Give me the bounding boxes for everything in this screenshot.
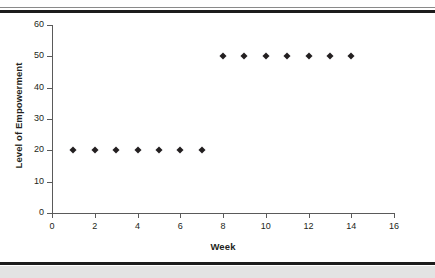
x-tick-label: 4 [135,221,140,231]
x-tick-mark [223,213,224,218]
x-tick-mark [266,213,267,218]
x-tick-label: 6 [178,221,183,231]
data-point-marker [219,53,226,60]
data-point-marker [262,53,269,60]
y-tick-mark [47,150,52,151]
y-tick-label: 60 [0,19,44,29]
x-axis-title: Week [52,241,394,252]
data-point-marker [284,53,291,60]
data-point-marker [305,53,312,60]
data-point-marker [155,147,162,154]
x-tick-label: 16 [389,221,399,231]
y-tick-label-wrap: 0 [0,207,44,217]
data-point-marker [70,147,77,154]
y-tick-mark [47,56,52,57]
x-tick-mark [394,213,395,218]
x-tick-label: 14 [346,221,356,231]
x-tick-mark [138,213,139,218]
figure-container: 0102030405060 0246810121416 Level of Emp… [0,0,435,278]
data-point-marker [198,147,205,154]
bottom-thick-rule [0,262,435,265]
x-tick-label: 0 [49,221,54,231]
y-tick-mark [47,182,52,183]
data-point-marker [134,147,141,154]
bottom-gray-band [0,266,435,278]
y-axis-line [52,25,53,214]
x-tick-label: 2 [92,221,97,231]
data-point-marker [326,53,333,60]
x-tick-mark [309,213,310,218]
x-tick-label: 10 [261,221,271,231]
y-tick-mark [47,88,52,89]
x-tick-label: 12 [303,221,313,231]
y-axis-title: Level of Empowerment [13,41,24,191]
scatter-plot: 0102030405060 0246810121416 Level of Emp… [0,0,435,278]
data-point-marker [113,147,120,154]
data-point-marker [91,147,98,154]
data-point-marker [348,53,355,60]
y-tick-mark [47,119,52,120]
x-tick-label: 8 [220,221,225,231]
x-tick-mark [351,213,352,218]
x-tick-mark [52,213,53,218]
y-tick-mark [47,25,52,26]
y-tick-label: 0 [0,207,44,217]
x-tick-mark [95,213,96,218]
data-point-marker [241,53,248,60]
x-tick-mark [180,213,181,218]
data-point-marker [177,147,184,154]
y-tick-label-wrap: 60 [0,19,44,29]
